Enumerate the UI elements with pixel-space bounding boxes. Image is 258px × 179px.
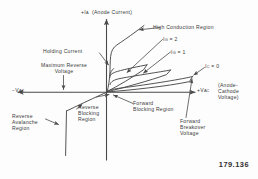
label-holding-current: Holding Current [43, 48, 82, 54]
leader-reverse-avalanche [46, 119, 59, 125]
leader-ig-0 [194, 68, 205, 76]
leader-forward-breakover [186, 79, 192, 118]
label-reverse-avalanche-region: ReverseAvalancheRegion [12, 113, 38, 132]
label-curve-ig-1: IG = 1 [171, 49, 185, 57]
label-reverse-blocking-region: ReverseBlockingRegion [78, 104, 99, 123]
leader-holding-current [100, 53, 109, 65]
axis-label-anode-cathode-voltage: (Anode-CathodeVoltage) [218, 82, 239, 101]
axis-label-anode-current: +IA (Anode Current) [81, 9, 132, 17]
figure-canvas: +IA (Anode Current) High Conduction Regi… [0, 0, 258, 179]
figure-number: 179.136 [219, 160, 249, 169]
label-curve-ig-0: IC = 0 [205, 63, 219, 71]
curve-reverse-avalanche [66, 111, 67, 156]
characteristic-curves [66, 26, 193, 156]
axis-label-positive-vac: +VAC [197, 87, 210, 95]
label-forward-breakover-voltage: ForwardBreakoverVoltage [180, 118, 205, 137]
leader-ig-1 [144, 52, 171, 73]
label-curve-ig-2: IG = 2 [163, 36, 177, 44]
label-maximum-reverse-voltage: Maximum ReverseVoltage [31, 62, 97, 74]
label-forward-blocking-region: ForwardBlocking Region [133, 100, 174, 112]
label-high-conduction-region: High Conduction Region [153, 24, 214, 30]
axis-label-negative-vac: −VAC [12, 87, 25, 95]
leader-forward-blocking [114, 95, 134, 104]
